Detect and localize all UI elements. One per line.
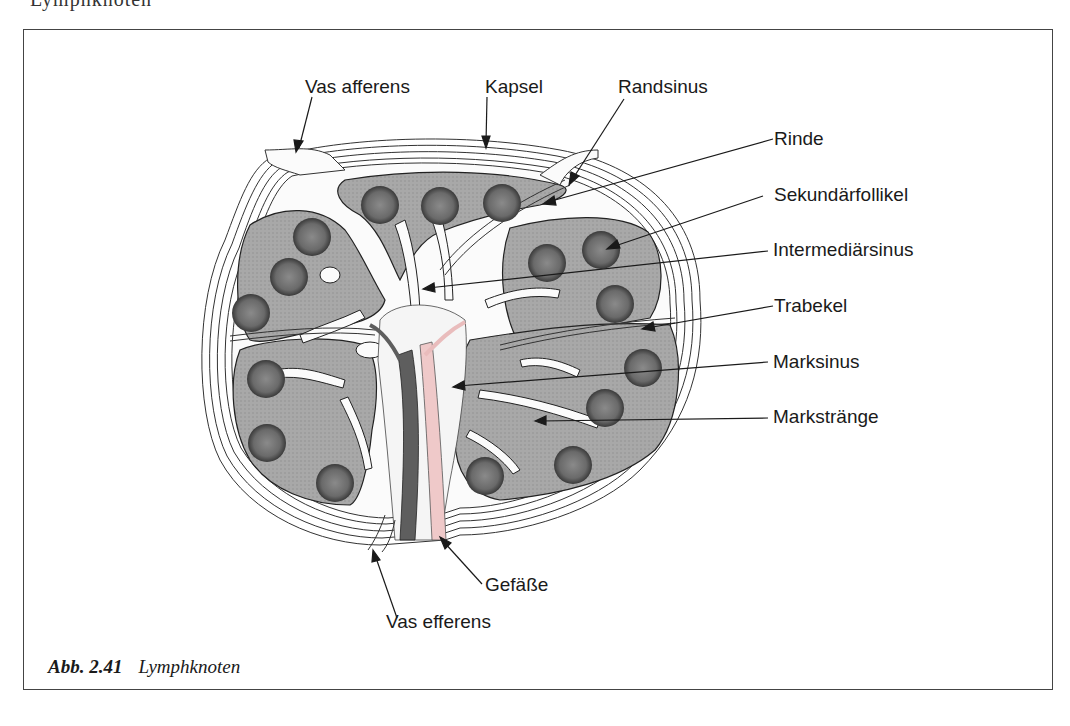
- label-trabekel: Trabekel: [774, 296, 847, 315]
- label-vas-afferens: Vas afferens: [305, 77, 410, 96]
- label-marksinus: Marksinus: [773, 352, 860, 371]
- caption-title: Lymphknoten: [138, 656, 240, 677]
- label-sekundaerfollikel: Sekundärfollikel: [774, 185, 908, 204]
- label-markstraenge: Markstränge: [773, 407, 879, 426]
- label-intermediaersinus: Intermediärsinus: [773, 240, 913, 259]
- lymph-node-illustration: [0, 0, 1070, 726]
- label-gefaesse: Gefäße: [485, 575, 548, 594]
- label-randsinus: Randsinus: [618, 77, 708, 96]
- label-vas-efferens: Vas efferens: [386, 612, 491, 631]
- figure-caption: Abb. 2.41Lymphknoten: [48, 656, 240, 678]
- label-kapsel: Kapsel: [485, 77, 543, 96]
- caption-number: Abb. 2.41: [48, 656, 122, 677]
- label-rinde: Rinde: [774, 129, 824, 148]
- efferent-vessel: [368, 515, 395, 552]
